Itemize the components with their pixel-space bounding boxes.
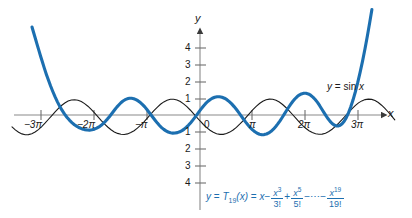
- taylor-formula-fraction-3: x55!: [291, 185, 303, 209]
- sine-annotation-arg: x: [359, 81, 364, 92]
- x-tick-label-negpi: −π: [135, 120, 148, 130]
- taylor-formula-term-4-denominator: 19!: [327, 198, 344, 209]
- taylor-formula-operator-4: −: [320, 191, 326, 202]
- x-tick-label-2pi: 2π: [298, 120, 310, 130]
- y-tick-label-neg3: 3: [185, 161, 191, 171]
- x-tick-label-zero: 0: [204, 120, 210, 130]
- x-tick-label-3pi: 3π: [351, 120, 363, 130]
- y-tick-label-neg4: 4: [185, 178, 191, 188]
- taylor-formula-operator-1: −: [264, 191, 270, 202]
- y-tick-label-1: 1: [185, 94, 191, 104]
- taylor-formula-fraction-2: x33!: [271, 185, 283, 209]
- figure-canvas: x y −3π −2π −π 0 π 2π 3π 1 2 3 4 1 2 3 4…: [0, 0, 412, 218]
- taylor-formula-term-2-denominator: 3!: [271, 198, 283, 209]
- taylor-formula-fraction-4: x1919!: [327, 185, 344, 209]
- taylor-formula-equals-1: =: [214, 191, 220, 202]
- y-tick-label-4: 4: [185, 43, 191, 53]
- taylor-formula-ellipsis: ⋯: [310, 191, 320, 202]
- y-tick-label-2: 2: [185, 77, 191, 87]
- taylor-formula-operator-2: +: [284, 191, 290, 202]
- taylor-formula-term-4-exponent: 19: [334, 186, 341, 193]
- sine-annotation-equals: =: [335, 81, 341, 92]
- x-axis-label: x: [388, 108, 394, 119]
- taylor-polynomial-curve: [32, 10, 372, 135]
- taylor-formula-term-3-denominator: 5!: [291, 198, 303, 209]
- sine-annotation-function: sin: [343, 81, 356, 92]
- taylor-formula-term-2-exponent: 3: [278, 186, 282, 193]
- taylor-formula-term-3-exponent: 5: [298, 186, 302, 193]
- y-tick-label-neg1: 1: [185, 127, 191, 137]
- taylor-formula-lhs: y: [206, 191, 211, 202]
- x-tick-label-neg2pi: −2π: [77, 120, 95, 130]
- y-tick-label-neg2: 2: [185, 144, 191, 154]
- taylor-formula-fn-arg: (x): [236, 191, 248, 202]
- sine-curve-annotation: y = sin x: [327, 82, 364, 92]
- x-tick-label-neg3pi: −3π: [24, 120, 42, 130]
- taylor-formula-equals-2: =: [251, 191, 257, 202]
- y-axis-label: y: [195, 13, 201, 24]
- x-tick-label-pi: π: [249, 120, 256, 130]
- y-tick-label-3: 3: [185, 60, 191, 70]
- taylor-formula-annotation: y = T19(x) = x−x33!+x55!−⋯−x1919!: [206, 185, 345, 209]
